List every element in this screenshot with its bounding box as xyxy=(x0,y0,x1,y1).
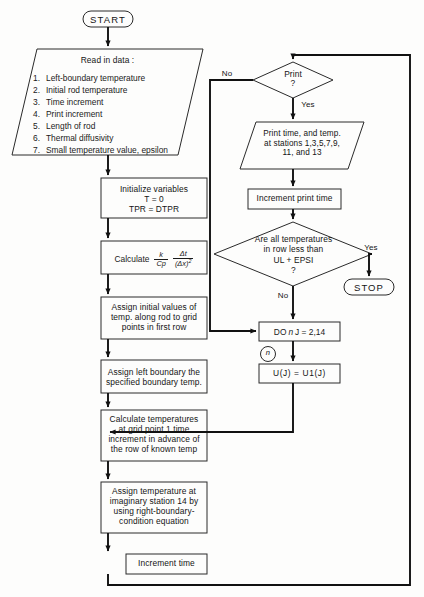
read-data-item-text: Small temperature value, epsilon xyxy=(46,145,168,157)
print-no-label: No xyxy=(216,69,238,78)
do-loop-box-label: DOnJ = 2,14 xyxy=(259,327,340,337)
read-data-item: 6.Thermal diffusivity xyxy=(33,133,203,145)
start-terminal-label: START xyxy=(83,14,133,25)
temp-condition-label: Are all temperatures in row less than UL… xyxy=(236,234,351,275)
read-data-item-number: 7. xyxy=(33,145,46,157)
increment-time-box-label: Increment time xyxy=(126,559,207,569)
fraction-denominator-cp: Cp xyxy=(154,260,167,268)
read-data-item-number: 5. xyxy=(33,121,46,133)
assign-left-boundary-box-label: Assign left boundary the specified bound… xyxy=(101,368,207,388)
read-data-item-text: Left-boundary temperature xyxy=(46,73,145,85)
initialize-box-label: Initialize variables T = 0 TPR = DTPR xyxy=(101,185,207,215)
flowchart-canvas: START Read in data : 1.Left-boundary tem… xyxy=(0,0,424,597)
print-yes-label: Yes xyxy=(297,100,319,109)
read-data-item-number: 3. xyxy=(33,97,46,109)
temp-no-label: No xyxy=(272,291,294,300)
read-data-item: 4.Print increment xyxy=(33,109,203,121)
read-data-item: 2.Initial rod temperature xyxy=(33,85,203,97)
read-data-header: Read in data : xyxy=(12,56,203,66)
read-data-item: 1.Left-boundary temperature xyxy=(33,73,203,85)
do-range: J = 2,14 xyxy=(295,327,325,337)
assign-u-box-label: U(J) = U1(J) xyxy=(259,369,340,379)
do-keyword: DO xyxy=(274,327,287,337)
read-data-item-text: Initial rod temperature xyxy=(46,85,127,97)
fraction-denominator-dx-squared: (Δx)2 xyxy=(173,259,194,268)
read-data-item-text: Length of rod xyxy=(46,121,95,133)
calculate-box-label: Calculate k Cp Δt (Δx)2 xyxy=(101,250,207,268)
temp-yes-label: Yes xyxy=(360,243,382,252)
increment-print-time-label: Increment print time xyxy=(248,194,341,204)
stop-terminal-label: STOP xyxy=(344,282,394,293)
connector-n-label: n xyxy=(258,349,278,358)
read-data-item-text: Time increment xyxy=(46,97,103,109)
print-decision-label: Print ? xyxy=(268,70,318,88)
connector-print-no-branch xyxy=(210,80,254,331)
read-data-item-number: 2. xyxy=(33,85,46,97)
assign-imaginary-box-label: Assign temperature at imaginary station … xyxy=(101,487,207,527)
calculate-fraction-k-over-cp: k Cp xyxy=(154,251,167,268)
calculate-temps-box-label: Calculate temperatures at grid point 1 t… xyxy=(101,415,207,455)
print-output-label: Print time, and temp. at stations 1,3,5,… xyxy=(240,129,364,158)
read-data-item-text: Print increment xyxy=(46,109,102,121)
read-data-item-number: 6. xyxy=(33,133,46,145)
read-data-list: 1.Left-boundary temperature2.Initial rod… xyxy=(33,73,203,156)
read-data-item-number: 4. xyxy=(33,109,46,121)
read-data-item-number: 1. xyxy=(33,73,46,85)
read-data-item-text: Thermal diffusivity xyxy=(46,133,113,145)
dx-exponent: 2 xyxy=(188,258,191,264)
read-data-item: 7.Small temperature value, epsilon xyxy=(33,145,203,157)
calculate-word: Calculate xyxy=(115,254,150,264)
connector-temp-yes-to-stop xyxy=(369,254,372,273)
read-data-item: 5.Length of rod xyxy=(33,121,203,133)
calculate-fraction-dt-over-dx2: Δt (Δx)2 xyxy=(173,250,194,268)
assign-initial-box-label: Assign initial values of temp. along rod… xyxy=(101,303,207,333)
do-statement-number: n xyxy=(286,327,295,337)
read-data-item: 3.Time increment xyxy=(33,97,203,109)
